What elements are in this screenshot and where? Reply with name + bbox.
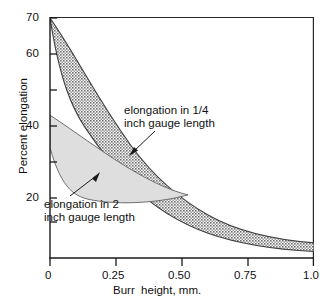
- leader-line-quarter-inch: [133, 131, 155, 152]
- x-axis-title: Burr height, mm.: [113, 284, 201, 296]
- annotation-two-inch-line1: elongation in 2: [44, 198, 119, 211]
- y-axis-title: Percent elongation: [17, 61, 29, 191]
- x-axis-ticks: [50, 258, 313, 266]
- x-tick-label-050: 0.50: [168, 269, 190, 281]
- x-tick-label-10: 1.0: [303, 269, 319, 281]
- y-tick-label-20: 20: [26, 191, 39, 203]
- chart-plot-area: [0, 0, 336, 301]
- chart-container: 70 60 40 20 0 0.25 0.50 0.75 1.0 Burr he…: [0, 0, 336, 301]
- x-tick-label-025: 0.25: [102, 269, 124, 281]
- y-tick-label-60: 60: [26, 47, 39, 59]
- x-tick-label-075: 0.75: [234, 269, 256, 281]
- x-tick-label-0: 0: [45, 269, 51, 281]
- y-tick-label-70: 70: [26, 11, 39, 23]
- annotation-quarter-inch-line1: elongation in 1/4: [124, 104, 208, 117]
- annotation-two-inch-line2: inch gauge length: [44, 211, 135, 224]
- annotation-quarter-inch-line2: inch gauge length: [124, 117, 215, 130]
